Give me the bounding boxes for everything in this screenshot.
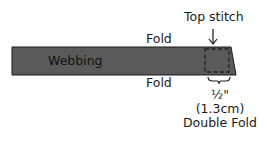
webbing-strip	[12, 47, 236, 75]
brace-icon	[208, 77, 230, 84]
double-fold-label: Double Fold	[180, 116, 260, 130]
fold-top-label: Fold	[146, 32, 172, 46]
top-stitch-label: Top stitch	[184, 10, 244, 24]
fold-bottom-label: Fold	[146, 76, 172, 90]
arrow-down-icon	[209, 29, 217, 44]
half-inch-label: ½"	[209, 88, 231, 102]
webbing-label: Webbing	[48, 54, 103, 68]
metric-label: (1.3cm)	[190, 102, 250, 116]
